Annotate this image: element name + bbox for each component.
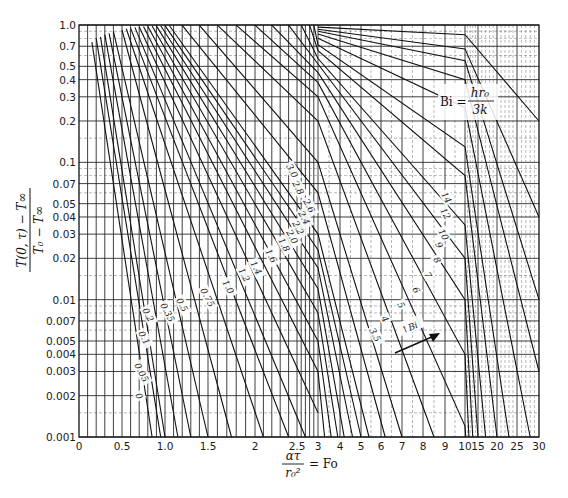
y-tick-label: 0.02 [53, 252, 76, 264]
curve-labels: 00.050.10.20.350.50.751.01.21.41.61.82.0… [131, 160, 454, 402]
y-tick-label: 0.4 [59, 74, 76, 86]
x-tick-label: 9 [442, 440, 449, 452]
x-tick-label: 5 [358, 440, 365, 452]
y-tick-label: 0.004 [46, 348, 76, 360]
x-tick-label: 20 [490, 440, 503, 452]
y-axis-ticks: 0.0010.0020.0030.0040.0050.0070.010.020.… [46, 19, 76, 443]
x-tick-label: 8 [420, 440, 427, 452]
y-tick-label: 0.5 [59, 60, 76, 72]
bi-numerator: hr₀ [471, 86, 489, 100]
y-tick-label: 0.05 [53, 198, 76, 210]
x-tick-label: 6 [378, 440, 385, 452]
x-axis-ticks: 00.51.01.522.534567891015202530 [76, 440, 546, 452]
curve [318, 31, 539, 299]
y-axis-title-numerator: T(0, τ) − T∞ [15, 193, 29, 268]
y-tick-label: 0.01 [53, 294, 76, 306]
y-tick-label: 0.04 [53, 211, 77, 223]
curve [139, 27, 318, 413]
x-axis-title-numerator: ατ [286, 449, 301, 463]
bi-definition-annotation: Bi = hr₀ 3k [438, 84, 498, 120]
y-tick-label: 0.2 [59, 115, 76, 127]
x-tick-label: 0 [76, 440, 83, 452]
x-tick-label: 1.5 [200, 440, 217, 452]
x-tick-label: 4 [337, 440, 344, 452]
x-tick-label: 15 [471, 440, 484, 452]
x-axis-title-denominator: r₀² [285, 466, 301, 480]
y-tick-label: 0.3 [59, 91, 76, 103]
y-tick-label: 0.002 [46, 390, 76, 402]
x-tick-label: 1.0 [157, 440, 174, 452]
bi-denominator: 3k [473, 103, 488, 117]
heisler-chart: 0.0010.0020.0030.0040.0050.0070.010.020.… [0, 0, 568, 498]
x-tick-label: 3 [315, 440, 322, 452]
y-tick-label: 0.07 [53, 178, 76, 190]
y-tick-label: 0.007 [46, 315, 76, 327]
y-axis-title-denominator: T₀ − T∞ [32, 206, 46, 255]
y-tick-label: 1.0 [59, 19, 76, 31]
x-axis-title-suffix: = Fo [309, 457, 338, 471]
curve [161, 26, 353, 437]
y-tick-label: 0.03 [53, 228, 76, 240]
curve [131, 28, 289, 437]
y-tick-label: 0.005 [46, 335, 76, 347]
y-tick-label: 0.001 [46, 431, 76, 443]
curve [217, 25, 434, 437]
x-tick-label: 2 [252, 440, 259, 452]
bi-prefix: Bi = [440, 95, 467, 109]
y-tick-label: 0.003 [46, 365, 76, 377]
x-axis-title: ατ r₀² = Fo [282, 449, 338, 480]
curve [318, 38, 530, 437]
x-tick-label: 30 [532, 440, 545, 452]
x-tick-label: 0.5 [114, 440, 131, 452]
x-tick-label: 7 [399, 440, 406, 452]
x-tick-label: 25 [510, 440, 523, 452]
y-axis-title: T(0, τ) − T∞ T₀ − T∞ [15, 188, 46, 272]
y-tick-label: 0.7 [59, 40, 76, 52]
y-tick-label: 0.1 [59, 156, 76, 168]
x-tick-label: 10 [458, 440, 471, 452]
